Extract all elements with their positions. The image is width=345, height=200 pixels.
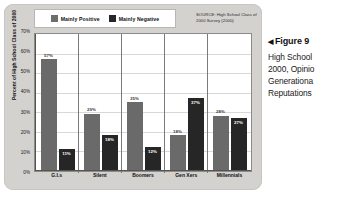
x-axis-labels: G.I.s Silent Boomers Gen Xers Millennial… — [35, 172, 251, 178]
legend-item-positive: Mainly Positive — [51, 15, 100, 22]
y-tick-30: 30% — [21, 109, 30, 114]
caption-line-1: High School — [268, 52, 345, 64]
bar-group-millennials: 28% 27% — [208, 34, 251, 170]
bar-group-boomers: 35% 12% — [122, 34, 165, 170]
caption-body: High School 2000, Opinio Generationa Rep… — [268, 52, 345, 100]
bar-group-gis: 57% 11% — [36, 34, 79, 170]
legend-swatch-negative — [109, 15, 116, 22]
x-label-boomers: Boomers — [121, 172, 164, 178]
x-label-gis: G.I.s — [35, 172, 78, 178]
x-label-millennials: Millennials — [208, 172, 251, 178]
bar-label-millennials-positive: 28% — [216, 109, 225, 114]
chart-legend: Mainly Positive Mainly Negative — [34, 9, 176, 28]
source-note: SOURCE: High School Class of 2000 Survey… — [196, 12, 260, 24]
legend-label-negative: Mainly Negative — [119, 16, 160, 22]
bar-label-millennials-negative: 27% — [234, 120, 243, 125]
y-tick-20: 20% — [21, 129, 30, 134]
bar-genxers-negative: 37% — [188, 98, 204, 170]
bar-silent-positive: 29% — [84, 114, 100, 170]
bar-label-silent-negative: 18% — [105, 137, 114, 142]
y-tick-60: 60% — [21, 49, 30, 54]
x-label-gen-xers: Gen Xers — [165, 172, 208, 178]
bar-millennials-negative: 27% — [231, 118, 247, 170]
bar-gis-positive: 57% — [41, 59, 57, 170]
bar-group-gen-xers: 18% 37% — [165, 34, 208, 170]
caption-line-2: 2000, Opinio — [268, 64, 345, 76]
bar-label-genxers-negative: 37% — [191, 100, 200, 105]
y-tick-40: 40% — [21, 89, 30, 94]
bar-label-gis-positive: 57% — [44, 53, 53, 58]
bar-millennials-positive: 28% — [213, 116, 229, 170]
bar-genxers-positive: 18% — [170, 135, 186, 170]
bar-label-gis-negative: 11% — [62, 151, 71, 156]
bar-label-boomers-positive: 35% — [130, 96, 139, 101]
figure-caption: ◀Figure 9 High School 2000, Opinio Gener… — [268, 36, 345, 100]
y-tick-10: 10% — [21, 149, 30, 154]
legend-swatch-positive — [51, 15, 58, 22]
bar-gis-negative: 11% — [59, 149, 75, 170]
caption-heading-row: ◀Figure 9 — [268, 36, 345, 46]
bar-group-silent: 29% 18% — [79, 34, 122, 170]
y-tick-70: 70% — [21, 29, 30, 34]
y-axis-line — [35, 34, 36, 171]
bar-silent-negative: 18% — [102, 135, 118, 170]
caption-line-4: Reputations — [268, 88, 345, 100]
bar-label-boomers-negative: 12% — [148, 149, 157, 154]
caption-heading: Figure 9 — [275, 36, 309, 46]
legend-label-positive: Mainly Positive — [61, 16, 100, 22]
legend-item-negative: Mainly Negative — [109, 15, 160, 22]
left-arrow-icon: ◀ — [268, 38, 273, 46]
y-axis-labels: 70% 60% 50% 40% 30% 20% 10% 0% — [13, 31, 32, 172]
bar-label-silent-positive: 29% — [87, 107, 96, 112]
x-axis-line — [35, 170, 251, 171]
bar-boomers-negative: 12% — [145, 147, 161, 170]
figure-container: Mainly Positive Mainly Negative SOURCE: … — [0, 0, 345, 200]
bar-boomers-positive: 35% — [127, 102, 143, 170]
y-tick-50: 50% — [21, 69, 30, 74]
plot-area: 57% 11% 29% 18% 35% — [34, 33, 252, 172]
x-label-silent: Silent — [78, 172, 121, 178]
bar-groups: 57% 11% 29% 18% 35% — [36, 34, 251, 170]
y-tick-0: 0% — [23, 170, 30, 175]
caption-line-3: Generationa — [268, 76, 345, 88]
bar-label-genxers-positive: 18% — [173, 129, 182, 134]
